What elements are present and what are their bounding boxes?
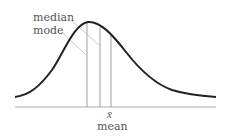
mode-label: mode xyxy=(33,25,64,36)
median-label: median xyxy=(33,12,74,23)
mean-label: mean xyxy=(97,121,128,132)
median-leader xyxy=(72,21,100,46)
mean-symbol: x̄ xyxy=(107,109,112,120)
skewed-distribution-diagram: median mode x̄ mean xyxy=(0,0,226,137)
